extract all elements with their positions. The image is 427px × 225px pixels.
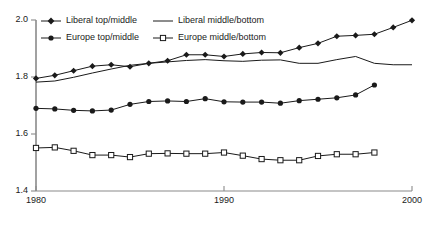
chart-legend: Liberal top/middle Liberal middle/bottom… (40, 12, 302, 46)
circle-marker-icon (40, 33, 62, 43)
legend-item-europe-top-middle: Europe top/middle (40, 33, 152, 43)
x-tick-label: 1990 (204, 195, 244, 205)
y-tick-label: 2.0 (4, 14, 28, 24)
x-tick-label: 2000 (392, 195, 427, 205)
series-europe-middle-bottom (33, 145, 377, 163)
y-tick-label: 1.8 (4, 71, 28, 81)
series-liberal-middle-bottom (36, 56, 412, 82)
open-square-marker-icon (152, 33, 174, 43)
legend-item-liberal-middle-bottom: Liberal middle/bottom (152, 16, 302, 26)
plain-line-marker-icon (152, 16, 174, 26)
legend-label: Liberal middle/bottom (178, 16, 264, 25)
legend-item-europe-middle-bottom: Europe middle/bottom (152, 33, 302, 43)
legend-label: Europe middle/bottom (178, 33, 266, 42)
diamond-marker-icon (40, 16, 62, 26)
legend-item-liberal-top-middle: Liberal top/middle (40, 16, 152, 26)
series-europe-top-middle (33, 82, 377, 113)
y-tick-label: 1.4 (4, 185, 28, 195)
legend-label: Europe top/middle (66, 33, 139, 42)
legend-label: Liberal top/middle (66, 16, 137, 25)
x-tick-label: 1980 (16, 195, 56, 205)
y-tick-label: 1.6 (4, 128, 28, 138)
